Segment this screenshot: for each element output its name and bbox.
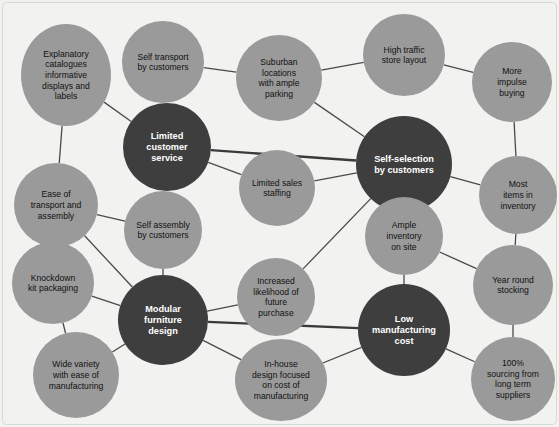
node-suburban-locations[interactable]: Suburbanlocationswith ampleparking	[236, 35, 322, 121]
edge-most-items-inventory-to-year-round-stocking	[515, 234, 516, 245]
node-knockdown-kit[interactable]: Knockdownkit packaging	[12, 242, 94, 324]
node-label-limited-customer-service: Limitedcustomerservice	[146, 131, 188, 163]
node-ample-inventory[interactable]: Ampleinventoryon site	[365, 197, 443, 275]
node-low-manufacturing-cost[interactable]: Lowmanufacturingcost	[358, 284, 450, 376]
node-more-impulse-buying[interactable]: Moreimpulsebuying	[472, 42, 552, 122]
node-label-knockdown-kit: Knockdownkit packaging	[28, 273, 78, 294]
node-label-modular-furniture-design: Modularfurnituredesign	[144, 304, 182, 336]
diagram-canvas: Explanatorycataloguesinformativedisplays…	[0, 0, 559, 427]
node-label-self-selection: Self-selectionby customers	[374, 154, 434, 175]
node-limited-sales-staffing[interactable]: Limited salesstaffing	[239, 150, 315, 226]
node-label-self-transport: Self transportby customers	[137, 52, 189, 73]
node-label-high-traffic: High trafficstore layout	[382, 45, 427, 66]
node-in-house-design[interactable]: In-housedesign focusedon cost ofmanufact…	[235, 339, 327, 421]
node-sourcing-long-term[interactable]: 100%sourcing fromlong termsuppliers	[471, 337, 555, 421]
node-label-year-round-stocking: Year roundstocking	[492, 275, 534, 296]
node-label-self-assembly: Self assemblyby customers	[136, 220, 190, 241]
node-self-assembly[interactable]: Self assemblyby customers	[124, 191, 202, 269]
node-self-transport[interactable]: Self transportby customers	[122, 21, 204, 103]
node-label-wide-variety: Wide varietywith ease ofmanufacturing	[49, 359, 104, 390]
node-wide-variety[interactable]: Wide varietywith ease ofmanufacturing	[33, 332, 119, 418]
node-explanatory-catalogues[interactable]: Explanatorycataloguesinformativedisplays…	[21, 24, 111, 126]
node-increased-likelihood[interactable]: Increasedlikelihood offuturepurchase	[237, 258, 315, 336]
node-most-items-inventory[interactable]: Mostitems ininventory	[479, 156, 557, 234]
node-high-traffic[interactable]: High trafficstore layout	[363, 14, 445, 96]
node-limited-customer-service[interactable]: Limitedcustomerservice	[123, 103, 211, 191]
node-modular-furniture-design[interactable]: Modularfurnituredesign	[118, 275, 208, 365]
network-diagram: Explanatorycataloguesinformativedisplays…	[0, 0, 559, 427]
node-year-round-stocking[interactable]: Year roundstocking	[473, 245, 553, 325]
node-ease-of-transport[interactable]: Ease oftransport andassembly	[14, 163, 98, 247]
